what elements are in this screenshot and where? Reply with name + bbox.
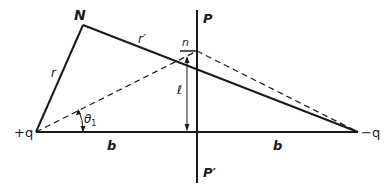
label-P: P bbox=[203, 11, 213, 26]
label-minus-q: −q bbox=[361, 125, 380, 140]
label-theta-subscript: 1 bbox=[91, 119, 96, 128]
dashed-n-to-minus-q bbox=[197, 51, 358, 132]
l-arrow-top-icon bbox=[185, 56, 190, 63]
label-n: n bbox=[182, 36, 189, 49]
label-b-right: b bbox=[273, 138, 282, 153]
l-arrow-bottom-icon bbox=[185, 124, 190, 131]
label-l: ℓ bbox=[176, 83, 182, 97]
dashed-plus-q-to-n bbox=[36, 51, 197, 132]
label-theta: θ1 bbox=[84, 112, 96, 128]
label-r-prime: r′ bbox=[138, 32, 146, 46]
label-P-prime: P′ bbox=[203, 165, 217, 180]
label-plus-q: +q bbox=[14, 125, 33, 140]
label-r: r bbox=[51, 66, 57, 80]
label-N: N bbox=[74, 7, 86, 23]
segment-r bbox=[36, 25, 83, 132]
label-b-left: b bbox=[107, 138, 116, 153]
dipole-diagram: N n r r′ P P′ +q −q b b ℓ θ1 bbox=[0, 0, 391, 193]
segment-r-prime bbox=[83, 25, 358, 132]
